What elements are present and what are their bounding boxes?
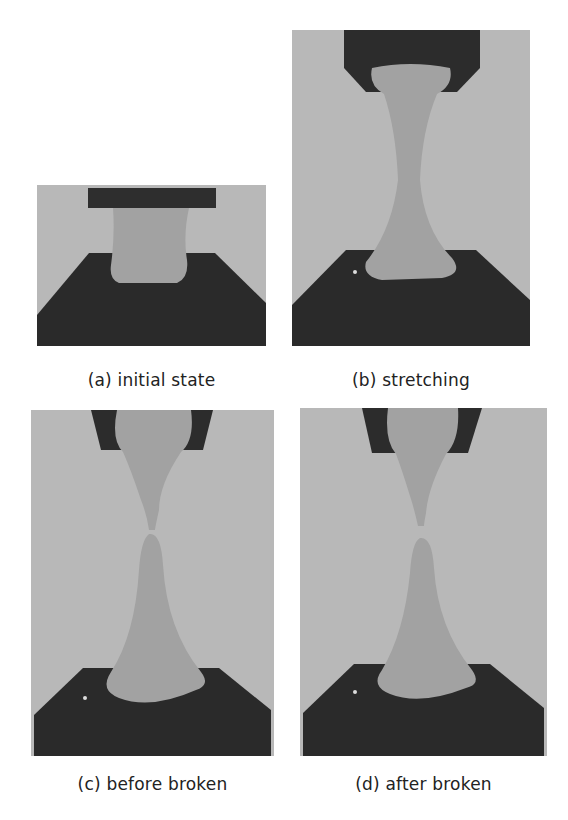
caption-d: (d) after broken — [300, 774, 547, 794]
panel-b-stretching — [292, 30, 530, 346]
panel-d-after-broken — [300, 408, 547, 756]
stretching-image — [292, 30, 530, 346]
panel-a-initial-state — [37, 185, 266, 346]
before-broken-image — [31, 410, 274, 756]
panel-c-before-broken — [31, 410, 274, 756]
after-broken-image — [300, 408, 547, 756]
initial-state-image — [37, 185, 266, 346]
caption-b: (b) stretching — [292, 370, 530, 390]
caption-a: (a) initial state — [37, 370, 266, 390]
caption-c: (c) before broken — [31, 774, 274, 794]
